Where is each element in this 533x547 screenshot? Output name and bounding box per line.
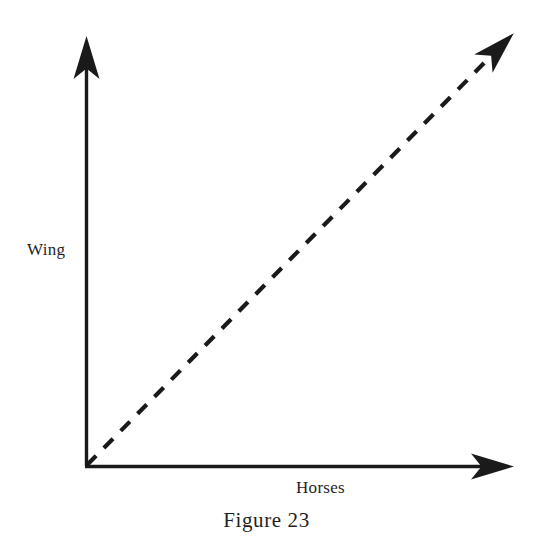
x-axis-label: Horses bbox=[296, 479, 345, 496]
figure-caption: Figure 23 bbox=[0, 510, 533, 531]
y-axis-label: Wing bbox=[27, 241, 65, 258]
trend-line-dashed bbox=[87, 55, 492, 465]
plot-area bbox=[0, 0, 533, 547]
figure-container: Wing Horses Figure 23 bbox=[0, 0, 533, 547]
